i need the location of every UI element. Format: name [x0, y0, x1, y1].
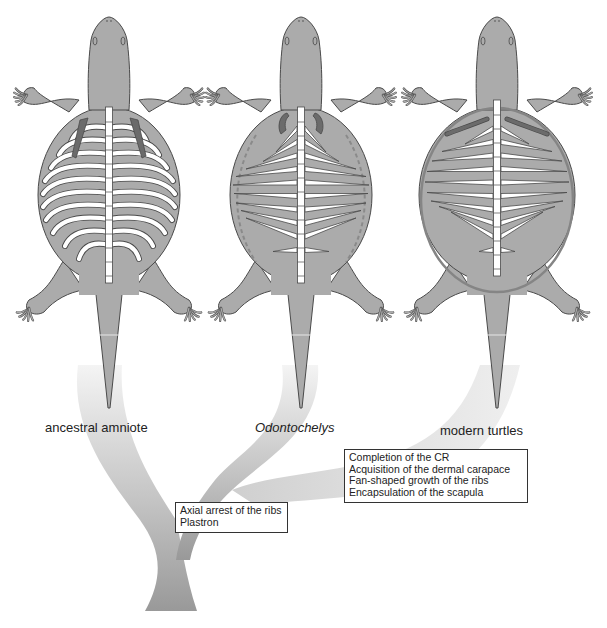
nostril	[110, 20, 112, 22]
left-hind-claws	[405, 308, 421, 321]
nostril	[498, 20, 500, 22]
left-forelimb	[411, 88, 467, 112]
trait-box-axial-arrest: Axial arrest of the ribs Plastron	[175, 502, 288, 533]
trait-line: Plastron	[180, 517, 283, 529]
right-forelimb	[331, 88, 387, 112]
turtle-ancestral-amniote	[14, 17, 204, 408]
left-hind-claws	[17, 308, 33, 321]
left-forelimb	[215, 88, 271, 112]
trait-line: Completion of the CR	[349, 452, 523, 464]
turtle-odontochelys	[206, 17, 396, 408]
vertebral-column	[298, 107, 305, 283]
vertebral-column	[106, 107, 113, 283]
right-forelimb	[527, 88, 583, 112]
taxon-label-odontochelys: Odontochelys	[255, 420, 335, 435]
right-hind-claws	[185, 308, 201, 321]
tree-branch-ancestral-amniote	[77, 365, 197, 611]
nostril	[302, 20, 304, 22]
right-hind-claws	[573, 308, 589, 321]
taxon-label-ancestral-amniote: ancestral amniote	[45, 420, 148, 435]
turtle-modern-turtles	[402, 17, 592, 408]
nostril	[298, 20, 300, 22]
vertebral-column	[494, 100, 501, 276]
turtle-evolution-diagram	[0, 0, 607, 628]
left-hind-claws	[209, 308, 225, 321]
trait-line: Axial arrest of the ribs	[180, 505, 283, 517]
left-forelimb	[23, 88, 79, 112]
trait-line: Fan-shaped growth of the ribs	[349, 475, 523, 487]
right-forelimb	[139, 88, 195, 112]
head-neck	[88, 17, 130, 110]
taxon-label-modern-turtles: modern turtles	[440, 423, 523, 438]
head-neck	[476, 17, 518, 110]
trait-line: Encapsulation of the scapula	[349, 487, 523, 499]
trait-box-carapace-completion: Completion of the CR Acquisition of the …	[344, 449, 528, 503]
nostril	[106, 20, 108, 22]
nostril	[494, 20, 496, 22]
right-hind-claws	[377, 308, 393, 321]
head-neck	[280, 17, 322, 110]
